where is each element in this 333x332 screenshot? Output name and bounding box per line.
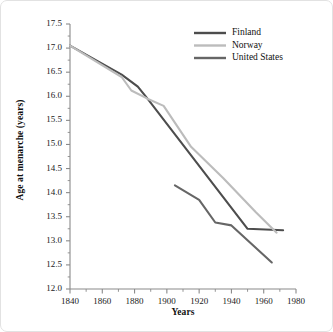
x-tick-label: 1880 — [118, 296, 152, 306]
x-tick-label: 1860 — [85, 296, 119, 306]
x-axis-title: Years — [69, 307, 297, 317]
y-tick-label: 17.0 — [32, 42, 62, 52]
y-tick-label: 14.5 — [32, 163, 62, 173]
x-tick-label: 1940 — [214, 296, 248, 306]
y-tick-label: 16.0 — [32, 90, 62, 100]
y-axis-title: Age at menarche (years) — [15, 80, 25, 220]
y-tick-label: 12.5 — [32, 259, 62, 269]
y-tick-label: 17.5 — [32, 18, 62, 28]
y-tick-label: 15.5 — [32, 114, 62, 124]
x-tick-label: 1920 — [182, 296, 216, 306]
y-tick-label: 13.5 — [32, 211, 62, 221]
y-tick-label: 14.0 — [32, 187, 62, 197]
x-tick-label: 1840 — [53, 296, 87, 306]
y-tick-label: 15.0 — [32, 138, 62, 148]
x-tick-label: 1980 — [279, 296, 313, 306]
x-tick-label: 1960 — [247, 296, 281, 306]
legend-label-united-states: United States — [232, 52, 283, 62]
legend-label-norway: Norway — [232, 40, 263, 50]
data-series-group — [70, 46, 283, 263]
y-tick-label: 16.5 — [32, 66, 62, 76]
series-line-norway — [70, 46, 277, 233]
y-tick-label: 12.0 — [32, 283, 62, 293]
legend-swatches — [194, 33, 226, 58]
y-tick-label: 13.0 — [32, 235, 62, 245]
series-line-finland — [70, 46, 283, 231]
legend-label-finland: Finland — [232, 27, 261, 37]
chart-figure: 12.012.513.013.514.014.515.015.516.016.5… — [0, 0, 333, 332]
x-tick-label: 1900 — [150, 296, 184, 306]
